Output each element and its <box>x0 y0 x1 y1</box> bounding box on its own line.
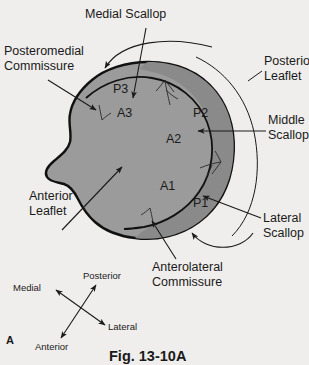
callout-anterolateral-commissure-line2: Commissure <box>152 275 222 289</box>
callout-lateral-scallop-line2: Scallop <box>263 226 304 240</box>
figure-container: P3 P2 P1 A3 A2 A1 <box>0 0 309 365</box>
callout-middle-scallop-line2: Scallop <box>268 128 309 142</box>
segment-label-a3: A3 <box>117 106 132 120</box>
segment-label-a2: A2 <box>166 132 181 146</box>
callout-posterior-leaflet-line2: Leaflet <box>264 69 302 83</box>
callout-posteromedial-commissure-line1: Posteromedial <box>4 44 84 58</box>
orientation-compass: Medial Posterior Lateral Anterior <box>13 270 137 352</box>
segment-label-a1: A1 <box>160 179 175 193</box>
callout-anterior-leaflet-line1: Anterior <box>29 189 73 203</box>
segment-label-p1: P1 <box>193 196 208 210</box>
callout-lateral-scallop-line1: Lateral <box>263 211 301 225</box>
callout-anterolateral-commissure-line1: Anterolateral <box>152 260 223 274</box>
compass-label-posterior: Posterior <box>83 270 121 281</box>
segment-label-p2: P2 <box>193 106 208 120</box>
panel-label: A <box>6 334 14 346</box>
compass-axis-posterior-anterior <box>61 285 96 338</box>
leader-posterior-leaflet-tick <box>248 71 262 81</box>
callout-middle-scallop-line1: Middle <box>268 113 305 127</box>
callout-posteromedial-commissure-line2: Commissure <box>4 59 74 73</box>
callout-medial-scallop: Medial Scallop <box>85 7 166 21</box>
mitral-valve-diagram: P3 P2 P1 A3 A2 A1 <box>0 0 309 365</box>
segment-label-p3: P3 <box>113 82 128 96</box>
compass-label-lateral: Lateral <box>108 321 137 332</box>
callout-posterior-leaflet-line1: Posterior <box>264 54 309 68</box>
compass-label-anterior: Anterior <box>35 341 68 352</box>
figure-caption: Fig. 13-10A <box>109 348 187 364</box>
callout-anterior-leaflet-line2: Leaflet <box>29 204 67 218</box>
leader-lateral-scallop-curve <box>192 233 253 247</box>
compass-label-medial: Medial <box>13 282 41 293</box>
